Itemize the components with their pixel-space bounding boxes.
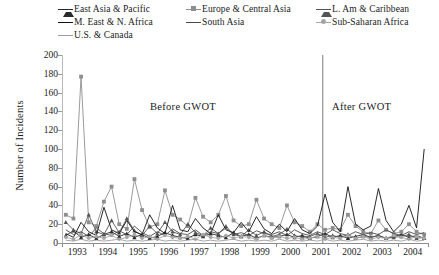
legend-item-sub-saharan-africa[interactable]: Sub-Saharan Africa	[316, 17, 408, 28]
data-point-marker	[293, 236, 297, 240]
data-point-marker	[117, 222, 121, 226]
data-point-marker	[300, 237, 304, 241]
legend-item-m-east-n-africa[interactable]: M. East & N. Africa	[58, 17, 153, 28]
data-point-marker	[354, 237, 358, 241]
data-point-marker	[148, 235, 152, 239]
data-point-marker	[140, 237, 144, 241]
data-point-marker	[277, 226, 281, 230]
data-point-marker	[163, 188, 167, 192]
series-europe-central-asia	[64, 75, 426, 237]
data-point-marker	[217, 237, 221, 241]
data-point-marker	[125, 236, 129, 240]
data-point-marker	[109, 218, 113, 222]
annotation-after-gwot: After GWOT	[332, 101, 391, 112]
data-point-marker	[285, 237, 289, 241]
data-point-marker	[323, 228, 327, 232]
data-point-marker	[64, 236, 68, 240]
data-point-marker	[201, 215, 205, 219]
data-point-marker	[346, 213, 350, 217]
data-point-marker	[194, 196, 198, 200]
data-point-marker	[133, 233, 137, 237]
line-marker-icon	[58, 17, 73, 28]
data-point-marker	[407, 222, 411, 226]
data-point-marker	[255, 237, 259, 241]
data-point-marker	[79, 75, 83, 79]
chart-legend: East Asia & PacificEurope & Central Asia…	[58, 4, 439, 46]
data-point-marker	[133, 177, 137, 181]
data-point-marker	[415, 235, 419, 239]
y-axis-tick-label: 160	[28, 88, 58, 98]
legend-item-u-s-canada[interactable]: U.S. & Canada	[58, 30, 133, 41]
x-axis-tick-label: 2004	[393, 246, 433, 258]
data-point-marker	[94, 224, 98, 228]
data-point-marker	[64, 213, 68, 217]
data-point-marker	[384, 237, 388, 241]
data-point-marker	[316, 235, 320, 239]
data-point-marker	[239, 235, 243, 239]
data-point-marker	[415, 230, 419, 234]
data-point-marker	[87, 237, 91, 241]
data-point-marker	[95, 235, 99, 239]
data-point-marker	[171, 213, 175, 217]
data-point-marker	[361, 235, 365, 239]
data-point-marker	[201, 233, 205, 237]
data-point-marker	[400, 236, 404, 240]
data-point-marker	[163, 234, 167, 238]
y-axis-tick-label: 100	[28, 144, 58, 154]
data-point-marker	[110, 185, 114, 189]
y-axis-tick-label: 60	[28, 182, 58, 192]
data-point-marker	[278, 235, 282, 239]
data-point-marker	[262, 234, 266, 238]
data-point-marker	[331, 236, 335, 240]
chart-figure: East Asia & PacificEurope & Central Asia…	[0, 0, 439, 275]
data-point-marker	[72, 217, 76, 221]
y-axis-tick-label: 180	[28, 69, 58, 79]
data-point-marker	[64, 220, 68, 224]
data-point-marker	[102, 200, 106, 204]
data-point-marker	[232, 219, 236, 223]
data-point-marker	[79, 233, 83, 237]
data-point-marker	[247, 222, 251, 226]
y-axis-title: Number of Incidents	[14, 71, 25, 221]
data-point-marker	[171, 236, 175, 240]
y-axis-tick-label: 40	[28, 200, 58, 210]
data-point-marker	[377, 219, 381, 223]
data-point-marker	[87, 213, 91, 217]
y-axis-tick-label: 200	[28, 50, 58, 60]
data-point-marker	[377, 236, 381, 240]
plot-area	[62, 55, 428, 243]
y-axis-tick-label: 120	[28, 125, 58, 135]
data-point-marker	[422, 237, 426, 241]
data-point-marker	[125, 227, 129, 231]
data-point-marker	[209, 220, 213, 224]
data-point-marker	[140, 208, 144, 212]
y-axis-tick-label: 80	[28, 163, 58, 173]
data-point-marker	[163, 220, 167, 224]
y-axis-tick-label: 0	[28, 238, 58, 248]
data-point-marker	[110, 234, 114, 238]
data-point-marker	[178, 218, 182, 222]
annotation-before-gwot: Before GWOT	[150, 101, 216, 112]
data-point-marker	[392, 234, 396, 238]
line-marker-icon	[186, 17, 201, 28]
y-axis-tick-label: 140	[28, 106, 58, 116]
data-point-marker	[346, 234, 350, 238]
data-point-marker	[247, 236, 251, 240]
line-marker-icon	[58, 30, 73, 41]
data-point-marker	[224, 234, 228, 238]
data-point-marker	[262, 217, 266, 221]
y-axis-tick-labels: 020406080100120140160180200	[28, 50, 58, 248]
data-point-marker	[331, 226, 335, 230]
legend-item-south-asia[interactable]: South Asia	[186, 17, 244, 28]
data-point-marker	[255, 198, 259, 202]
legend-item-label: Sub-Saharan Africa	[332, 17, 408, 28]
data-point-marker	[178, 237, 182, 241]
data-point-marker	[270, 222, 274, 226]
x-axis-tick-labels: 1993199419951996199719981999200020012002…	[62, 246, 428, 262]
data-point-marker	[209, 236, 213, 240]
data-point-marker	[224, 194, 228, 198]
data-point-marker	[339, 237, 343, 241]
legend-item-label: M. East & N. Africa	[74, 17, 153, 28]
legend-item-label: South Asia	[202, 17, 244, 28]
data-point-marker	[270, 237, 274, 241]
